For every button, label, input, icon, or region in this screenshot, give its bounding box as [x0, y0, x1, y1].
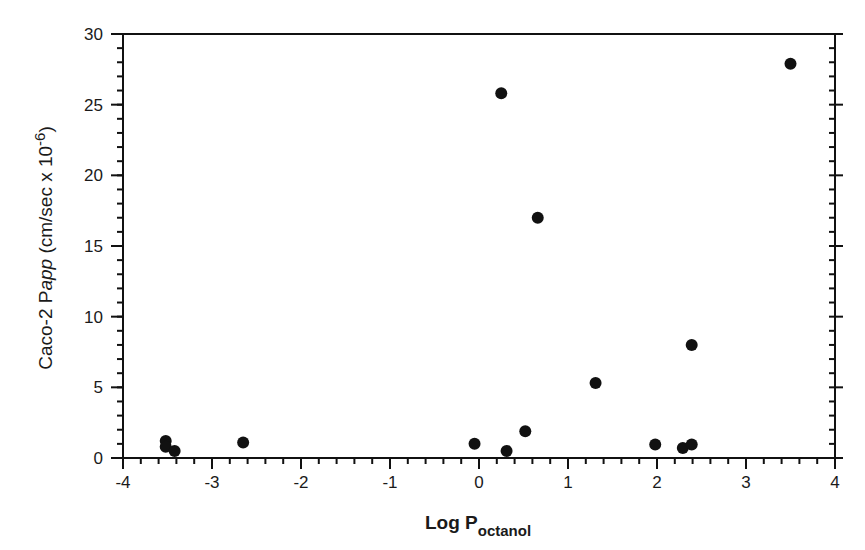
data-point [469, 438, 481, 450]
data-point [649, 439, 661, 451]
x-axis-title-subscript: octanol [478, 522, 531, 539]
scatter-chart: -4-3-2-101234051015202530 Log Poctanol C… [0, 0, 865, 550]
data-point [785, 58, 797, 70]
x-tick-label: 2 [652, 473, 661, 492]
y-axis-title-italic: app [35, 259, 56, 291]
data-point [169, 445, 181, 457]
y-axis-title-close: ) [35, 126, 56, 132]
x-tick-label: 0 [474, 473, 483, 492]
x-tick-label: -4 [115, 473, 130, 492]
x-axis-title: Log Poctanol [425, 512, 531, 539]
x-tick-label: -1 [382, 473, 397, 492]
y-axis-title-prefix: Caco-2 P [35, 291, 56, 370]
x-axis-title-main: Log P [425, 512, 478, 533]
x-tick-label: 4 [830, 473, 839, 492]
data-point [519, 425, 531, 437]
data-point [686, 339, 698, 351]
y-axis-title: Caco-2 Papp (cm/sec x 10-6) [31, 126, 56, 370]
x-tick-label: 1 [563, 473, 572, 492]
y-axis-title-suffix: (cm/sec x 10 [35, 146, 56, 259]
y-tick-label: 20 [84, 166, 103, 185]
data-point [237, 436, 249, 448]
x-tick-label: 3 [741, 473, 750, 492]
data-point [501, 445, 513, 457]
tick-labels: -4-3-2-101234051015202530 [84, 25, 840, 492]
data-points [160, 58, 797, 457]
y-tick-label: 30 [84, 25, 103, 44]
x-tick-label: -3 [204, 473, 219, 492]
data-point [495, 87, 507, 99]
y-tick-label: 10 [84, 308, 103, 327]
x-tick-label: -2 [293, 473, 308, 492]
y-tick-label: 15 [84, 237, 103, 256]
y-tick-label: 25 [84, 96, 103, 115]
major-ticks [111, 34, 843, 469]
y-tick-label: 0 [94, 449, 103, 468]
data-point [532, 212, 544, 224]
minor-ticks [117, 34, 835, 464]
y-axis-title-exponent: -6 [31, 133, 48, 146]
plot-frame [123, 34, 835, 458]
y-tick-label: 5 [94, 378, 103, 397]
data-point [590, 377, 602, 389]
data-point [686, 439, 698, 451]
